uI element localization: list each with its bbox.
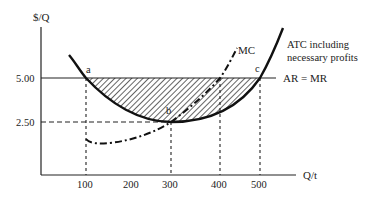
- x-tick-400: 400: [211, 179, 227, 190]
- atc-label-line2: necessary profits: [287, 52, 358, 63]
- x-tick-500: 500: [251, 179, 267, 190]
- cost-curve-diagram: $/Q Q/t 5.00 2.50 100 200 300 400 500 a …: [0, 0, 379, 201]
- point-c-label: c: [255, 63, 260, 74]
- point-b-label: b: [166, 105, 171, 116]
- x-axis-label: Q/t: [303, 169, 317, 181]
- y-tick-500: 5.00: [16, 73, 34, 84]
- atc-label-line1: ATC including: [287, 39, 350, 50]
- x-tick-100: 100: [77, 179, 93, 190]
- x-tick-200: 200: [123, 179, 139, 190]
- ar-mr-label: AR = MR: [283, 72, 328, 84]
- x-tick-300: 300: [162, 179, 178, 190]
- point-a-label: a: [86, 64, 91, 75]
- mc-label: MC: [238, 44, 255, 56]
- y-axis-label: $/Q: [33, 11, 50, 23]
- y-tick-250: 2.50: [16, 117, 34, 128]
